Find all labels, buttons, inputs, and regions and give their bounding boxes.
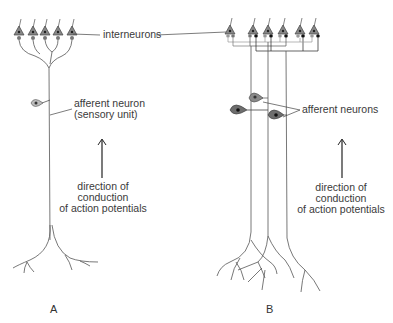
leader-interneurons-b	[156, 32, 226, 35]
interneurons-a	[14, 19, 77, 40]
label-direction-a: direction of conduction of action potent…	[57, 181, 149, 214]
afferent-neuron-soma-a	[31, 100, 43, 107]
panel-a-diagram	[13, 19, 106, 273]
axon-branches-b	[228, 38, 318, 51]
label-sensory-unit: (sensory unit)	[74, 109, 138, 120]
interneurons-b	[225, 18, 320, 38]
panel-b-diagram	[156, 18, 346, 292]
axon-tree-a	[13, 40, 98, 273]
leader-afferent-a	[50, 109, 72, 115]
arrow-a	[98, 139, 106, 178]
label-direction-b: direction of conduction of action potent…	[295, 182, 387, 215]
label-afferent-neurons: afferent neurons	[302, 104, 378, 115]
label-interneurons: interneurons	[103, 29, 161, 40]
panel-label-b: B	[266, 303, 273, 315]
afferent-neuron-somas-b	[230, 93, 287, 119]
arrow-b	[338, 139, 346, 178]
diagram-canvas	[0, 0, 393, 323]
afferent-axons-b	[217, 42, 320, 292]
panel-label-a: A	[50, 303, 57, 315]
